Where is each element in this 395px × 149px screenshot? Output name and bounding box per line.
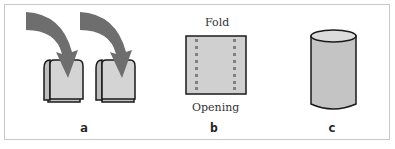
- panel-label: b: [210, 120, 218, 135]
- panel-label: a: [80, 120, 88, 135]
- panel-a: a: [0, 0, 140, 149]
- panel-label: c: [328, 120, 336, 135]
- cylinder-illustration: [270, 0, 395, 120]
- pouch-icon: [96, 60, 135, 102]
- flat-pouch-illustration: [140, 0, 270, 100]
- panel-c: c: [270, 0, 395, 149]
- panel-b: Fold Opening b: [140, 0, 270, 149]
- pouch-arrow-illustration: [0, 0, 140, 120]
- opening-label: Opening: [192, 101, 239, 114]
